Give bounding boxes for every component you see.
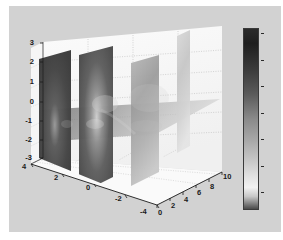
z-tick-label-0: 0 <box>22 98 34 106</box>
z-tick-label-m1: -1 <box>20 117 32 125</box>
x-tick-label-8: 8 <box>210 183 214 191</box>
slice-plot-graphic <box>9 6 281 232</box>
colorbar-tickmark-2 <box>261 33 264 34</box>
colorbar-tickmark-m10 <box>261 192 264 193</box>
x-tick-label-0: 0 <box>158 209 162 217</box>
z-tick-label-1: 1 <box>22 78 34 86</box>
colorbar-tickmark-0 <box>261 60 264 61</box>
y-tick-label-2: 2 <box>54 174 58 182</box>
figure-canvas: 3 2 1 0 -1 -2 -3 4 2 0 -2 -4 0 2 4 6 8 1… <box>9 6 281 232</box>
colorbar-tickmark-m8 <box>261 166 264 167</box>
z-tick-label-m2: -2 <box>20 136 32 144</box>
x-tick-label-4: 4 <box>184 196 188 204</box>
y-tick-label-m2: -2 <box>115 195 122 203</box>
colorbar-tick-group: 2 0 -2 -4 -6 -8 -10 <box>261 28 281 210</box>
colorbar-tickmark-m4 <box>261 113 264 114</box>
z-tick-label-2: 2 <box>22 58 34 66</box>
z-tick-label-3: 3 <box>22 39 34 47</box>
z-tick-label-m3: -3 <box>20 154 32 162</box>
axes-3d: 3 2 1 0 -1 -2 -3 4 2 0 -2 -4 0 2 4 6 8 1… <box>9 6 281 232</box>
y-tick-label-4: 4 <box>22 163 26 171</box>
colorbar-gradient <box>243 28 259 210</box>
y-tick-label-m4: -4 <box>140 208 147 216</box>
x-tick-label-2: 2 <box>171 202 175 210</box>
colorbar-tickmark-m6 <box>261 139 264 140</box>
colorbar-tickmark-m2 <box>261 86 264 87</box>
colorbar[interactable]: 2 0 -2 -4 -6 -8 -10 <box>243 28 281 212</box>
slice-plane-x4 <box>177 30 190 153</box>
y-tick-label-0: 0 <box>86 184 90 192</box>
x-tick-label-6: 6 <box>197 189 201 197</box>
x-tick-label-10: 10 <box>223 173 231 181</box>
